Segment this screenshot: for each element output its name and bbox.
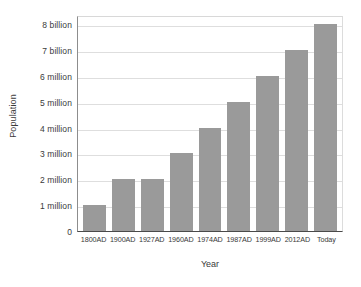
bar-slot xyxy=(109,17,138,231)
y-tick-label: 0 xyxy=(67,227,72,237)
y-tick-label: 2 million xyxy=(40,175,72,185)
population-bar-chart: Population 01 million2 million3 million4… xyxy=(0,0,361,287)
x-tick-label: 1960AD xyxy=(166,235,195,249)
bars-layer xyxy=(78,17,342,231)
x-axis-title: Year xyxy=(77,259,343,269)
x-tick-label: 1974AD xyxy=(195,235,224,249)
bar-slot xyxy=(224,17,253,231)
bar-slot xyxy=(196,17,225,231)
y-tick-label: 1 million xyxy=(40,201,72,211)
x-axis-tick-labels: 1800AD1900AD1927AD1960AD1974AD1987AD1999… xyxy=(77,235,343,249)
bar-slot xyxy=(253,17,282,231)
y-tick-label: 7 billion xyxy=(42,46,72,56)
y-tick-label: 8 billion xyxy=(42,20,72,30)
bar[interactable] xyxy=(141,179,164,231)
x-tick-label: 1999AD xyxy=(254,235,283,249)
y-axis-tick-labels: 01 million2 million3 million4 million5 m… xyxy=(20,16,76,232)
y-tick-label: 6 million xyxy=(40,72,72,82)
bar[interactable] xyxy=(83,205,106,231)
bar[interactable] xyxy=(227,102,250,231)
bar[interactable] xyxy=(199,128,222,231)
bar-slot xyxy=(282,17,311,231)
bar[interactable] xyxy=(256,76,279,231)
x-tick-label: 1900AD xyxy=(108,235,137,249)
bar[interactable] xyxy=(285,50,308,231)
bar[interactable] xyxy=(170,153,193,231)
y-axis-title-label: Population xyxy=(8,94,18,138)
y-tick-label: 3 million xyxy=(40,149,72,159)
bar[interactable] xyxy=(112,179,135,231)
x-tick-label: 1987AD xyxy=(225,235,254,249)
x-tick-label: 1927AD xyxy=(137,235,166,249)
bar-slot xyxy=(138,17,167,231)
x-tick-label: 2012AD xyxy=(283,235,312,249)
plot-area xyxy=(77,16,343,232)
bar-slot xyxy=(167,17,196,231)
x-tick-label: Today xyxy=(312,235,341,249)
bar-slot xyxy=(80,17,109,231)
bar-slot xyxy=(311,17,340,231)
y-tick-label: 4 million xyxy=(40,124,72,134)
y-tick-label: 5 million xyxy=(40,98,72,108)
x-tick-label: 1800AD xyxy=(79,235,108,249)
bar[interactable] xyxy=(314,24,337,231)
